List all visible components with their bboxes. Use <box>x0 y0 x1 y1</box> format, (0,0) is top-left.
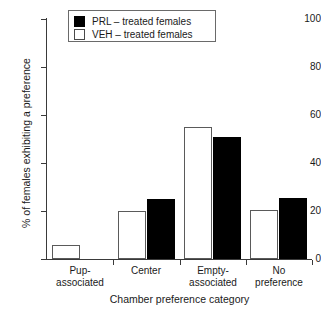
y-tick-80 <box>41 67 46 68</box>
y-tick-40 <box>41 163 46 164</box>
y-tick-60 <box>41 115 46 116</box>
bar-veh-0 <box>52 245 80 259</box>
x-category-label-0: Pup-associated <box>47 265 113 288</box>
bar-veh-1 <box>118 211 146 259</box>
bar-prl-2 <box>213 137 241 259</box>
x-tick-3 <box>312 260 313 265</box>
bar-prl-1 <box>147 199 175 259</box>
x-axis-line <box>46 259 312 260</box>
y-axis-title: % of females exhibiting a preference <box>20 23 32 263</box>
bar-veh-2 <box>184 127 212 259</box>
y-tick-20 <box>41 211 46 212</box>
x-axis-title: Chamber preference category <box>47 293 312 305</box>
bar-chart-figure: PRL – treated females VEH – treated fema… <box>0 0 321 312</box>
x-category-label-1: Center <box>113 265 179 277</box>
plot-area <box>47 19 312 259</box>
y-tick-100 <box>41 19 46 20</box>
x-category-label-3: Nopreference <box>246 265 312 288</box>
x-category-label-2: Empty-associated <box>180 265 246 288</box>
bar-prl-3 <box>279 198 307 259</box>
bar-veh-3 <box>250 210 278 259</box>
y-tick-0 <box>41 259 46 260</box>
